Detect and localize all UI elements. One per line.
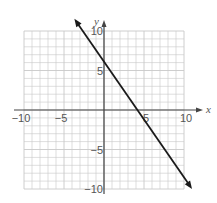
y-tick-label: −10 xyxy=(84,183,103,195)
y-tick-label: 5 xyxy=(97,65,103,77)
x-tick-label: 10 xyxy=(180,112,192,124)
x-axis-label: x xyxy=(205,103,211,115)
line-segment xyxy=(77,23,189,184)
y-axis-label: y xyxy=(93,15,99,27)
arrowhead-up-icon xyxy=(74,19,81,27)
x-tick-label: −5 xyxy=(55,112,68,124)
coordinate-plane: −10−5510105−5−10 x y xyxy=(0,0,217,203)
y-tick-label: −5 xyxy=(90,144,103,156)
plotted-line xyxy=(74,19,192,189)
arrowhead-down-icon xyxy=(185,181,192,189)
x-tick-label: −10 xyxy=(12,112,31,124)
x-axis-arrow-icon xyxy=(196,108,203,113)
axes xyxy=(14,20,203,194)
